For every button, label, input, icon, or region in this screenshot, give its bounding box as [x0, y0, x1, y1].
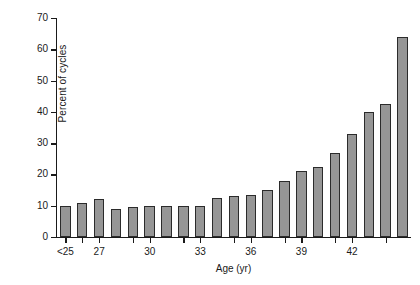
y-axis-tick-mark	[51, 81, 56, 82]
bar	[246, 195, 256, 237]
x-axis-tick-mark	[251, 238, 252, 243]
bar	[229, 196, 239, 237]
y-axis-tick-label: 0	[22, 232, 48, 242]
x-axis-tick-mark	[65, 238, 66, 243]
bar	[144, 206, 154, 237]
x-axis-tick-mark	[386, 238, 387, 243]
bar	[212, 198, 222, 237]
bar	[111, 209, 121, 237]
y-axis-tick-mark	[51, 49, 56, 50]
x-axis-tick-label: 27	[94, 246, 105, 257]
bar	[380, 104, 390, 237]
bar	[397, 37, 407, 237]
bar	[330, 153, 340, 237]
x-axis-tick-mark	[285, 238, 286, 243]
bar	[60, 206, 70, 237]
x-axis-tick-mark	[82, 238, 83, 243]
x-axis-tick-mark	[301, 238, 302, 243]
x-axis-tick-label: 33	[195, 246, 206, 257]
bar	[279, 181, 289, 237]
y-axis-tick-label: 40	[22, 107, 48, 117]
bar	[262, 190, 272, 237]
y-axis-tick-label: 60	[22, 44, 48, 54]
x-axis-tick-mark	[99, 238, 100, 243]
bar-chart-figure: Percent of cycles 010203040506070 Age (y…	[0, 0, 420, 285]
x-axis-tick-label: 42	[346, 246, 357, 257]
y-axis-tick-mark	[51, 112, 56, 113]
x-axis-tick-mark	[183, 238, 184, 243]
y-axis-tick-mark	[51, 174, 56, 175]
bar	[161, 206, 171, 237]
x-axis-tick-label: 30	[144, 246, 155, 257]
x-axis-tick-mark	[352, 238, 353, 243]
bar	[195, 206, 205, 237]
x-axis-tick-label: 36	[245, 246, 256, 257]
bar	[94, 199, 104, 237]
y-axis-tick-label: 30	[22, 138, 48, 148]
bar	[128, 207, 138, 237]
bar	[347, 134, 357, 237]
y-axis-tick-label: 50	[22, 76, 48, 86]
y-axis-tick-mark	[51, 206, 56, 207]
y-axis-tick-label: 20	[22, 169, 48, 179]
plot-area	[57, 18, 411, 237]
bar	[77, 203, 87, 237]
x-axis-tick-mark	[234, 238, 235, 243]
x-axis-tick-label: 39	[296, 246, 307, 257]
x-axis-tick-mark	[150, 238, 151, 243]
y-axis-tick-mark	[51, 237, 56, 238]
x-axis-tick-mark	[133, 238, 134, 243]
bar	[313, 167, 323, 237]
bar	[364, 112, 374, 237]
bar	[296, 171, 306, 237]
x-axis-tick-mark	[335, 238, 336, 243]
y-axis-tick-mark	[51, 143, 56, 144]
y-axis-tick-label: 70	[22, 13, 48, 23]
x-axis-title: Age (yr)	[56, 263, 411, 274]
bar	[178, 206, 188, 237]
y-axis-tick-label: 10	[22, 201, 48, 211]
y-axis-tick-labels: 010203040506070	[22, 12, 48, 238]
x-axis-tick-mark	[200, 238, 201, 243]
y-axis-tick-mark	[51, 18, 56, 19]
x-axis-tick-label: <25	[57, 246, 74, 257]
